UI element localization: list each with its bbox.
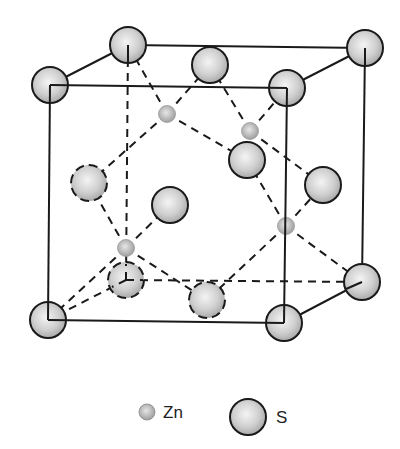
- cube-edge-line: [128, 45, 365, 48]
- sulfur-atom: [71, 165, 107, 201]
- zinc-atom: [242, 123, 259, 140]
- legend-zn-label: Zn: [163, 403, 183, 422]
- cube-front-edge-line: [48, 320, 284, 323]
- zinc-atoms: [118, 106, 295, 257]
- cube-front-edge-line: [284, 88, 287, 323]
- zinc-atom: [159, 106, 176, 123]
- sulfur-atom: [305, 167, 341, 203]
- sulfur-atom: [189, 282, 225, 318]
- sulfur-atom: [152, 187, 188, 223]
- zinc-atom: [118, 240, 135, 257]
- sulfur-atom: [192, 47, 228, 83]
- cube-edge-line: [362, 48, 365, 282]
- legend-s-label: S: [276, 408, 287, 427]
- hidden-edge-line: [126, 280, 362, 282]
- legend-s-icon: [230, 399, 266, 435]
- cube-front-edge-line: [50, 85, 287, 88]
- legend: Zn S: [139, 399, 287, 435]
- sulfur-atoms: [30, 27, 383, 341]
- zinc-blende-unit-cell-diagram: Zn S: [0, 0, 400, 449]
- legend-zn-icon: [139, 404, 155, 420]
- cube-front-edge-line: [48, 85, 50, 320]
- sulfur-atom: [229, 142, 265, 178]
